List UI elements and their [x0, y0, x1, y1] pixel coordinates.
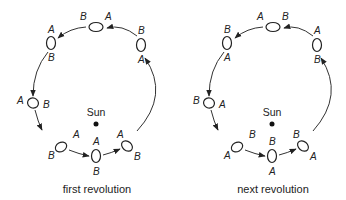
end-label: B [43, 99, 50, 110]
caption: next revolution [237, 183, 309, 195]
end-label: A [313, 25, 321, 36]
sun-dot [94, 122, 99, 127]
caption: first revolution [63, 183, 131, 195]
end-label: A [16, 95, 24, 106]
end-label: A [309, 151, 317, 162]
sun-label: Sun [263, 106, 282, 118]
orbit-arc [209, 52, 224, 96]
planet-ellipse [47, 37, 56, 50]
planet-ellipse [92, 150, 101, 163]
end-label: A [47, 24, 55, 35]
end-label: B [48, 52, 55, 63]
revolution-diagram: B A B A A B A B B A A B A B Sun first re… [0, 0, 346, 200]
orbit-arc [107, 27, 137, 36]
end-label: A [268, 166, 276, 177]
planet-ellipse [202, 96, 216, 109]
orbit-arc [137, 58, 156, 131]
orbit-arc [58, 27, 86, 38]
orbit-arc [279, 149, 296, 155]
end-label: A [72, 129, 80, 140]
end-label: A [104, 11, 112, 22]
orbit-arc [103, 149, 120, 155]
orbit-arc [245, 150, 265, 156]
planet-ellipse [54, 140, 69, 154]
end-label: A [218, 99, 226, 110]
end-label: B [134, 151, 141, 162]
planet-ellipse [223, 37, 232, 50]
end-label: A [137, 54, 145, 65]
sun-label: Sun [87, 106, 106, 118]
end-label: B [249, 129, 256, 140]
planet-ellipse [296, 139, 311, 154]
end-label: B [93, 166, 100, 177]
end-label: B [282, 11, 289, 22]
planet-ellipse [26, 96, 40, 109]
end-label: B [224, 24, 231, 35]
planet-ellipse [268, 150, 277, 163]
planet-ellipse [137, 39, 146, 52]
end-label: B [269, 136, 276, 147]
orbit-arc [211, 110, 218, 130]
orbit-arc [313, 58, 331, 131]
end-label: A [223, 150, 231, 161]
end-label: A [116, 129, 124, 140]
planet-ellipse [89, 23, 103, 32]
orbit-arc [69, 150, 89, 156]
planet-ellipse [230, 140, 245, 154]
end-label: B [80, 11, 87, 22]
first-revolution-panel: B A B A A B A B B A A B A B Sun first re… [16, 11, 156, 195]
next-revolution-panel: A B A B B A B A A B B A B A Sun next rev… [193, 11, 331, 195]
end-label: B [48, 150, 55, 161]
end-label: A [256, 11, 264, 22]
sun-dot [270, 122, 275, 127]
end-label: A [92, 136, 100, 147]
end-label: B [193, 95, 200, 106]
end-label: B [138, 25, 145, 36]
orbit-arc [284, 27, 313, 36]
orbit-arc [235, 27, 263, 38]
orbit-arc [35, 110, 42, 130]
end-label: A [223, 52, 231, 63]
end-label: B [314, 54, 321, 65]
planet-ellipse [120, 139, 135, 154]
end-label: B [293, 129, 300, 140]
planet-ellipse [266, 23, 280, 32]
orbit-arc [33, 52, 48, 96]
planet-ellipse [313, 39, 322, 52]
